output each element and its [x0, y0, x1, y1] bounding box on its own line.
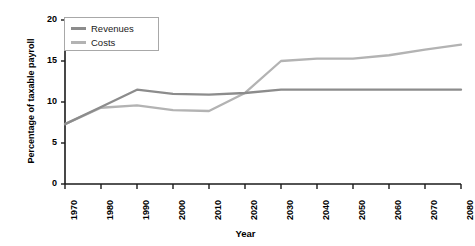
- legend-item-costs: Costs: [71, 35, 158, 49]
- x-tick-label: 2030: [285, 200, 295, 220]
- x-axis-title-text: Year: [235, 228, 255, 239]
- y-tick-label: 20: [31, 14, 57, 24]
- x-tick-label: 1970: [69, 200, 79, 220]
- legend-label-costs: Costs: [91, 37, 115, 48]
- y-tick-label: 0: [31, 178, 57, 188]
- legend-swatch-revenues: [71, 27, 86, 30]
- legend-swatch-costs: [71, 41, 86, 44]
- chart-container: Percentage of taxable payroll 20151050 1…: [0, 0, 475, 246]
- x-tick-label: 2080: [465, 200, 475, 220]
- x-tick-label: 2040: [321, 200, 331, 220]
- x-tick-label: 2010: [213, 200, 223, 220]
- x-tick-label: 2070: [429, 200, 439, 220]
- x-axis-title: Year: [0, 228, 475, 239]
- x-tick-label: 1980: [105, 200, 115, 220]
- y-tick-label: 5: [31, 137, 57, 147]
- legend-item-revenues: Revenues: [71, 21, 158, 35]
- legend-label-revenues: Revenues: [91, 23, 134, 34]
- series-line-costs: [65, 45, 461, 125]
- x-tick-label: 1990: [141, 200, 151, 220]
- x-tick-label: 2060: [393, 200, 403, 220]
- y-tick-label: 10: [31, 96, 57, 106]
- x-tick-label: 2000: [177, 200, 187, 220]
- x-tick-label: 2020: [249, 200, 259, 220]
- data-series-lines: [65, 45, 461, 125]
- x-tick-label: 2050: [357, 200, 367, 220]
- chart-legend: Revenues Costs: [64, 17, 159, 51]
- y-tick-label: 15: [31, 55, 57, 65]
